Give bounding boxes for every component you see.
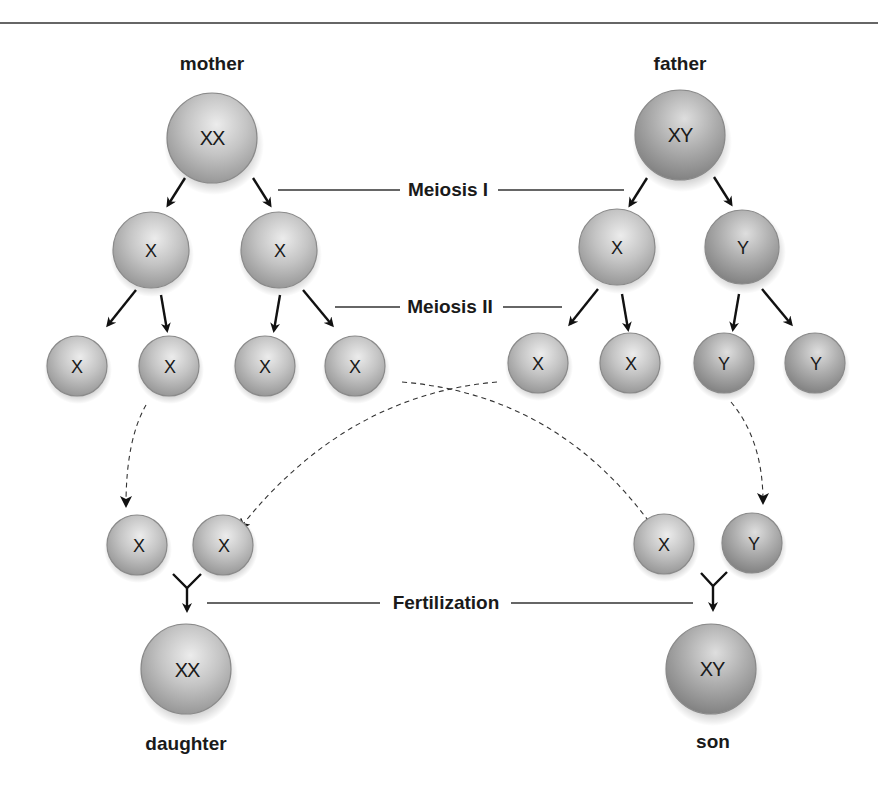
- arrow-father-m1-right: [714, 177, 731, 204]
- svg-text:X: X: [218, 536, 230, 556]
- svg-text:Y: Y: [810, 354, 822, 374]
- father-m1-cell-1: X: [577, 209, 661, 294]
- svg-text:X: X: [164, 357, 176, 377]
- daughter-egg: X: [104, 515, 172, 583]
- meiosis2-label: Meiosis II: [407, 296, 493, 317]
- arrow-m2-8: [762, 289, 791, 324]
- dashed-path-mother-to-son: [402, 382, 655, 530]
- svg-text:XX: XX: [200, 127, 225, 149]
- dashed-path-father-to-daughter: [240, 382, 497, 528]
- svg-text:X: X: [274, 241, 286, 261]
- fertilization-label: Fertilization: [393, 592, 500, 613]
- father-label: father: [654, 53, 707, 74]
- svg-text:X: X: [133, 536, 145, 556]
- arrow-m2-1: [108, 290, 136, 325]
- svg-text:Y: Y: [737, 238, 749, 258]
- father-gamete-2: X: [597, 333, 665, 401]
- svg-text:X: X: [625, 354, 637, 374]
- arrow-m2-6: [622, 294, 628, 329]
- daughter-fusion-arrow: [173, 574, 201, 610]
- arrow-m2-4: [303, 290, 332, 325]
- dashed-path-mother-to-daughter: [126, 405, 146, 505]
- svg-text:X: X: [259, 357, 271, 377]
- mother-gamete-2: X: [136, 336, 204, 404]
- arrow-m2-5: [570, 289, 598, 324]
- daughter-sperm: X: [190, 515, 258, 583]
- son-label: son: [696, 731, 730, 752]
- father-cell: XY: [632, 90, 732, 192]
- son-cell: XY: [663, 624, 763, 726]
- meiosis1-label: Meiosis I: [408, 179, 488, 200]
- svg-text:Y: Y: [718, 354, 730, 374]
- svg-text:X: X: [349, 357, 361, 377]
- svg-text:X: X: [532, 354, 544, 374]
- father-gamete-3: Y: [691, 333, 759, 401]
- svg-text:Y: Y: [748, 534, 760, 554]
- arrow-father-m1-left: [630, 178, 647, 205]
- arrow-m2-7: [733, 294, 739, 329]
- father-gamete-1: X: [505, 333, 573, 401]
- svg-text:X: X: [145, 241, 157, 261]
- svg-text:X: X: [71, 357, 83, 377]
- arrow-m2-2: [161, 295, 167, 330]
- mother-cell: XX: [164, 93, 264, 195]
- mother-gamete-3: X: [232, 336, 300, 404]
- sex-determination-diagram: mother XX father XY Meiosis I X X X Y: [0, 0, 878, 796]
- mother-gamete-1: X: [44, 336, 112, 404]
- son-fusion-arrow: [701, 572, 727, 609]
- arrow-mother-m1-right: [253, 178, 270, 205]
- daughter-label: daughter: [145, 733, 227, 754]
- dashed-path-father-to-son: [731, 402, 763, 502]
- mother-m1-cell-1: X: [110, 212, 194, 297]
- daughter-cell: XX: [138, 624, 238, 726]
- svg-text:XX: XX: [175, 659, 200, 681]
- svg-text:XY: XY: [668, 124, 693, 146]
- mother-gamete-4: X: [322, 336, 390, 404]
- son-sperm: Y: [719, 513, 787, 581]
- son-egg: X: [631, 514, 699, 582]
- svg-text:X: X: [658, 535, 670, 555]
- svg-text:X: X: [611, 238, 623, 258]
- arrow-mother-m1-left: [168, 178, 185, 205]
- svg-text:XY: XY: [700, 658, 725, 680]
- mother-label: mother: [180, 53, 245, 74]
- father-gamete-4: Y: [782, 333, 850, 401]
- father-m1-cell-2: Y: [702, 210, 786, 294]
- mother-m1-cell-2: X: [238, 212, 322, 297]
- arrow-m2-3: [274, 295, 280, 330]
